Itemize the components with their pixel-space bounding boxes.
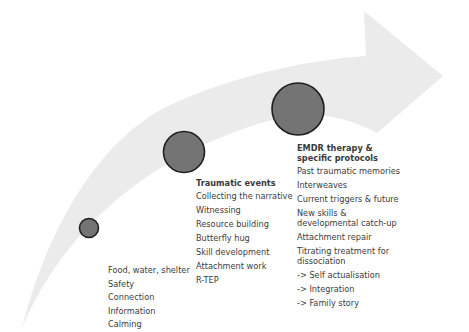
stage-basic-needs: Food, water, shelter Safety Connection I…	[108, 265, 190, 332]
stage-item: Witnessing	[196, 205, 293, 215]
stage-traumatic-events: Traumatic events Collecting the narrativ…	[196, 178, 293, 289]
stage-item: Current triggers & future	[297, 194, 407, 204]
stage-emdr-therapy: EMDR therapy & specific protocols Past t…	[297, 143, 407, 312]
stage-item: New skills & developmental catch-up	[297, 208, 407, 228]
stage-item: Collecting the narrative	[196, 191, 293, 201]
stage-item: Skill development	[196, 247, 293, 257]
stage-item: -> Integration	[297, 284, 407, 294]
stage-item: Attachment work	[196, 261, 293, 271]
stage-item: Food, water, shelter	[108, 265, 190, 275]
stage-item: -> Self actualisation	[297, 270, 407, 280]
stage-item: Interweaves	[297, 180, 407, 190]
stage-item: Butterfly hug	[196, 233, 293, 243]
stage-3-marker	[272, 83, 324, 135]
stage-item: Titrating treatment for dissociation	[297, 246, 407, 266]
stage-title: Traumatic events	[196, 178, 293, 188]
stage-item: Information	[108, 306, 190, 316]
stage-item: Past traumatic memories	[297, 166, 407, 176]
stage-item: -> Family story	[297, 298, 407, 308]
stage-title: EMDR therapy & specific protocols	[297, 143, 407, 163]
stage-item: Safety	[108, 279, 190, 289]
stage-item: Calming	[108, 319, 190, 329]
stage-1-marker	[80, 219, 99, 238]
stage-item: Connection	[108, 292, 190, 302]
stage-item: R-TEP	[196, 275, 293, 285]
stage-item: Attachment repair	[297, 232, 407, 242]
stage-item: Resource building	[196, 219, 293, 229]
stage-2-marker	[164, 132, 205, 173]
